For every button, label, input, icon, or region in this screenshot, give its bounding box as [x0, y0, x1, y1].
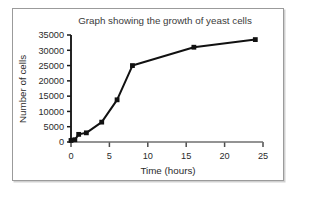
- data-point-marker: [72, 137, 77, 142]
- data-point-marker: [84, 130, 89, 135]
- y-tick-label: 10000: [38, 107, 64, 117]
- x-tick-label: 25: [258, 151, 268, 161]
- yeast-growth-line-chart: Graph showing the growth of yeast cells …: [13, 9, 283, 180]
- y-tick-label: 15000: [38, 91, 64, 101]
- data-point-marker: [130, 63, 135, 68]
- data-point-marker: [99, 120, 104, 125]
- chart-title: Graph showing the growth of yeast cells: [78, 15, 252, 26]
- x-tick-label: 0: [68, 151, 73, 161]
- y-tick-label: 20000: [38, 76, 64, 86]
- y-tick-label: 30000: [38, 46, 64, 56]
- x-tick-label: 10: [143, 151, 153, 161]
- x-tick-label: 5: [107, 151, 112, 161]
- y-tick-label: 35000: [38, 30, 64, 40]
- x-tick-label: 20: [219, 151, 229, 161]
- y-axis-title: Number of cells: [17, 55, 28, 123]
- data-point-marker: [115, 97, 120, 102]
- y-tick-label: 5000: [44, 122, 64, 132]
- data-point-marker: [76, 132, 81, 137]
- x-tick-label: 15: [181, 151, 191, 161]
- figure-root: Graph showing the growth of yeast cells …: [0, 0, 313, 202]
- y-tick-label: 25000: [38, 61, 64, 71]
- data-point-marker: [253, 37, 258, 42]
- data-point-marker: [191, 45, 196, 50]
- y-tick-label: 0: [59, 137, 64, 147]
- chart-frame: Graph showing the growth of yeast cells …: [12, 8, 284, 181]
- x-axis-title: Time (hours): [140, 165, 195, 176]
